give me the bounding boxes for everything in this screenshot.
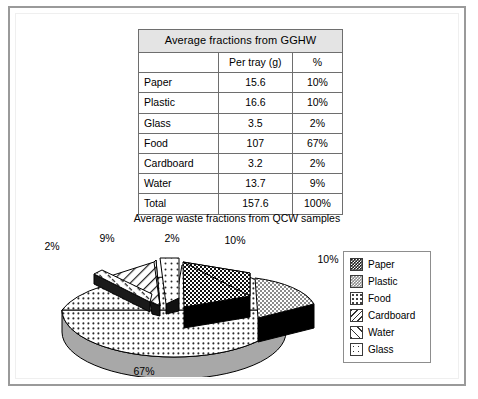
row-percent: 10% [292, 73, 342, 93]
legend-item-plastic: Plastic [350, 274, 424, 288]
legend-label: Water [368, 327, 394, 338]
row-label: Glass [139, 113, 219, 133]
legend-label: Food [368, 293, 391, 304]
legend-swatch-cardboard-icon [350, 309, 363, 322]
row-per-tray: 3.2 [218, 154, 292, 174]
table-row: Cardboard 3.2 2% [139, 154, 343, 174]
table-row: Plastic 16.6 10% [139, 93, 343, 113]
row-label: Plastic [139, 93, 219, 113]
row-label: Food [139, 133, 219, 153]
legend-item-glass: Glass [350, 342, 424, 356]
pie-label-cardboard: 2% [44, 240, 59, 252]
row-per-tray: 16.6 [218, 93, 292, 113]
chart-legend: Paper Plastic Food Cardboard Water Glass [343, 251, 431, 363]
legend-item-food: Food [350, 291, 424, 305]
row-percent: 9% [292, 174, 342, 194]
document-page: Average fractions from GGHW Per tray (g)… [8, 6, 466, 386]
pie-slice-paper [183, 262, 250, 328]
legend-label: Cardboard [368, 310, 415, 321]
table-row: Water 13.7 9% [139, 174, 343, 194]
table-row: Glass 3.5 2% [139, 113, 343, 133]
legend-swatch-glass-icon [350, 343, 363, 356]
average-fractions-table: Average fractions from GGHW Per tray (g)… [138, 29, 343, 215]
row-per-tray: 107 [218, 133, 292, 153]
legend-label: Paper [368, 259, 395, 270]
legend-swatch-food-icon [350, 292, 363, 305]
row-label: Water [139, 174, 219, 194]
table-body: Average fractions from GGHW Per tray (g)… [139, 30, 343, 215]
row-per-tray: 13.7 [218, 174, 292, 194]
table-title-row: Average fractions from GGHW [139, 30, 343, 53]
chart-title: Average waste fractions from QCW samples [10, 212, 464, 224]
row-percent: 2% [292, 113, 342, 133]
table-header-row: Per tray (g) % [139, 52, 343, 72]
legend-item-paper: Paper [350, 257, 424, 271]
legend-label: Plastic [368, 276, 397, 287]
row-per-tray: 15.6 [218, 73, 292, 93]
row-per-tray: 3.5 [218, 113, 292, 133]
row-percent: 2% [292, 154, 342, 174]
pie-label-food: 67% [133, 365, 154, 377]
row-label: Paper [139, 73, 219, 93]
legend-swatch-plastic-icon [350, 275, 363, 288]
table-row: Paper 15.6 10% [139, 73, 343, 93]
row-percent: 67% [292, 133, 342, 153]
legend-swatch-water-icon [350, 326, 363, 339]
column-header-percent: % [292, 52, 342, 72]
table-row: Food 107 67% [139, 133, 343, 153]
pie-label-paper: 10% [224, 234, 245, 246]
legend-swatch-paper-icon [350, 258, 363, 271]
pie-label-glass: 2% [164, 232, 179, 244]
row-percent: 10% [292, 93, 342, 113]
column-header-category [139, 52, 219, 72]
pie-label-water: 9% [99, 232, 114, 244]
pie-chart-svg: 2% 9% 2% 10% 10% 67% [32, 232, 344, 377]
pie-label-plastic: 10% [317, 253, 338, 265]
row-label: Cardboard [139, 154, 219, 174]
legend-item-cardboard: Cardboard [350, 308, 424, 322]
pie-slice-plastic [255, 278, 314, 342]
legend-label: Glass [368, 344, 394, 355]
pie-chart: 2% 9% 2% 10% 10% 67% [32, 232, 344, 377]
legend-item-water: Water [350, 325, 424, 339]
table-title: Average fractions from GGHW [139, 30, 343, 53]
column-header-per-tray: Per tray (g) [218, 52, 292, 72]
